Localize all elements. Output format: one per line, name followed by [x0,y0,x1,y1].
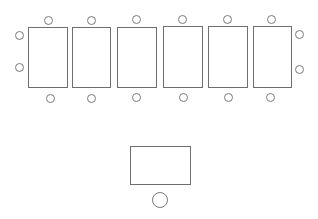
table-6[interactable] [253,26,292,88]
seat-bottom-1-icon[interactable] [46,94,55,103]
seat-top-3-icon[interactable] [132,15,141,24]
seat-top-1-icon[interactable] [44,16,53,25]
table-2[interactable] [72,27,111,88]
table-4[interactable] [163,26,203,88]
seat-front-icon[interactable] [152,192,168,208]
seat-bottom-5-icon[interactable] [224,93,233,102]
seat-right-2-icon[interactable] [295,65,304,74]
seat-bottom-6-icon[interactable] [266,93,275,102]
seat-bottom-2-icon[interactable] [87,94,96,103]
seat-bottom-3-icon[interactable] [132,93,141,102]
seat-top-4-icon[interactable] [178,15,187,24]
table-front[interactable] [130,146,191,185]
table-5[interactable] [208,26,248,88]
seat-top-5-icon[interactable] [223,15,232,24]
seating-diagram [0,0,318,219]
table-3[interactable] [117,27,157,88]
seat-bottom-4-icon[interactable] [179,93,188,102]
seat-top-2-icon[interactable] [87,16,96,25]
seat-left-1-icon[interactable] [15,31,24,40]
seat-left-2-icon[interactable] [15,63,24,72]
seat-top-6-icon[interactable] [267,15,276,24]
table-1[interactable] [28,27,68,88]
seat-right-1-icon[interactable] [295,30,304,39]
